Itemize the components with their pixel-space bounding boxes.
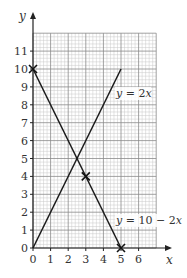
- y-tick-label: 2: [21, 206, 28, 219]
- y-tick-label: 10: [14, 63, 28, 76]
- y-tick-label: 6: [21, 135, 28, 148]
- y-tick-label: 4: [21, 170, 28, 183]
- y-tick-label: 1: [21, 224, 28, 237]
- x-tick-label: 1: [47, 253, 54, 266]
- x-tick-label: 3: [82, 253, 89, 266]
- x-tick-label: 4: [100, 253, 107, 266]
- equation-label-y-2x: y = 2x: [115, 87, 152, 100]
- y-tick-label: 8: [21, 99, 28, 112]
- x-tick-label: 6: [135, 253, 142, 266]
- y-axis-arrow-icon: [30, 12, 36, 19]
- x-axis-label: x: [166, 253, 173, 267]
- y-axis-label: y: [18, 9, 26, 23]
- x-tick-label: 0: [30, 253, 37, 266]
- y-tick-label: 11: [14, 45, 28, 58]
- equation-label-y-10-minus-2x: y = 10 − 2x: [115, 214, 183, 227]
- y-tick-label: 5: [21, 153, 28, 166]
- chart: 012345678910110123456 y x y = 2x y = 10 …: [0, 0, 187, 278]
- x-axis-arrow-icon: [165, 245, 172, 251]
- y-tick-label: 9: [21, 81, 28, 94]
- x-tick-label: 2: [65, 253, 72, 266]
- y-tick-label: 7: [21, 117, 28, 130]
- x-tick-label: 5: [118, 253, 125, 266]
- y-tick-label: 3: [21, 188, 28, 201]
- y-tick-label: 0: [21, 242, 28, 255]
